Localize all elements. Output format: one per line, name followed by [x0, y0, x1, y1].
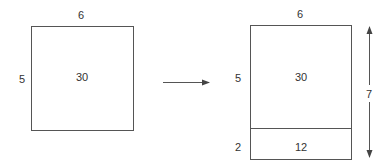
left-width-label: 6	[71, 9, 91, 21]
right-top-height-label: 5	[228, 72, 248, 84]
right-width-label: 6	[290, 8, 310, 20]
left-height-label: 5	[12, 73, 32, 85]
right-rectangle	[251, 26, 352, 160]
left-area-label: 30	[72, 71, 92, 83]
right-bottom-area-label: 12	[291, 141, 311, 153]
right-bottom-height-label: 2	[228, 141, 248, 153]
right-top-area-label: 30	[291, 71, 311, 83]
diagram-canvas	[0, 0, 391, 167]
total-height-label: 7	[359, 88, 379, 100]
